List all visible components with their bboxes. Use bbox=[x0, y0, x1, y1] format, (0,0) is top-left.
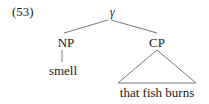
cp-triangle bbox=[118, 50, 196, 83]
branch-root-to-np bbox=[64, 20, 108, 33]
leaf-smell: smell bbox=[49, 64, 77, 77]
root-node-gamma: γ bbox=[110, 6, 115, 18]
leaf-cp-yield: that fish burns bbox=[120, 86, 194, 99]
node-cp: CP bbox=[149, 36, 165, 49]
branch-root-to-cp bbox=[111, 20, 157, 33]
example-number: (53) bbox=[12, 5, 34, 18]
node-np: NP bbox=[58, 36, 75, 49]
